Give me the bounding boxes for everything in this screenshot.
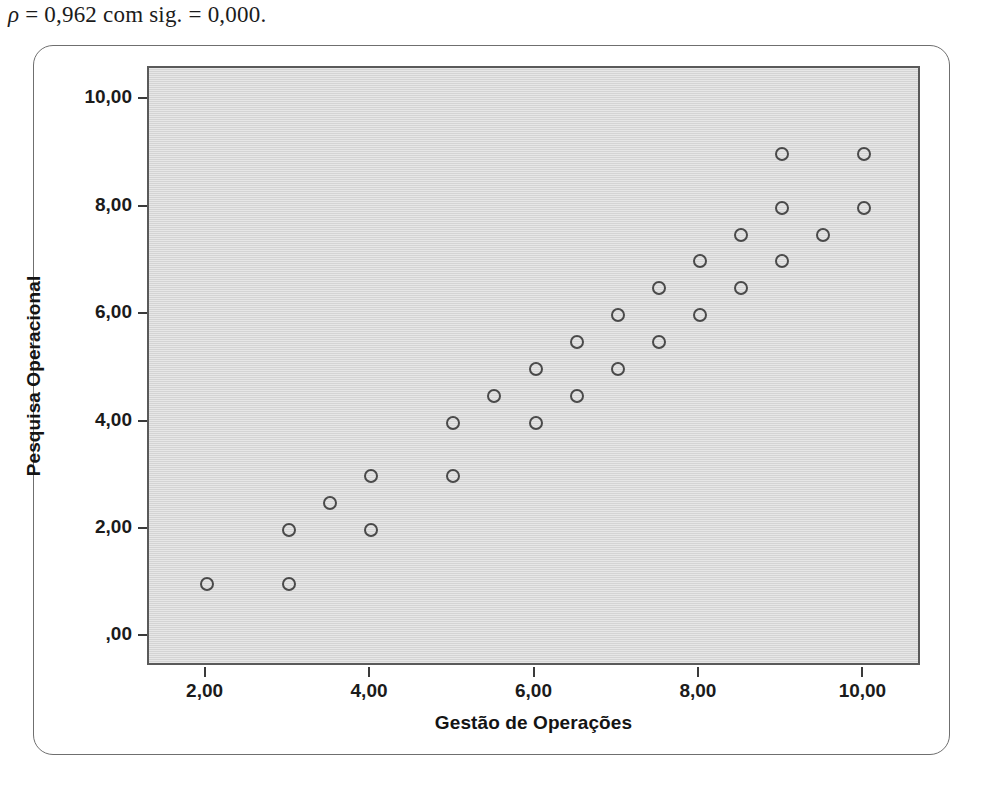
plot-panel [147,66,920,665]
y-tick-label: ,00 [48,623,132,645]
y-tick-label: 10,00 [48,86,132,108]
y-axis-title: Pesquisa Operacional [23,226,45,526]
y-tick-label-wrap: 2,00 [44,516,132,540]
data-point [529,362,543,376]
y-tick-mark [138,420,147,422]
y-tick-label-wrap: ,00 [44,623,132,647]
y-tick-label-wrap: 6,00 [44,301,132,325]
y-tick-label-wrap: 4,00 [44,409,132,433]
y-tick-label-wrap: 8,00 [44,194,132,218]
data-point [364,469,378,483]
data-point [734,228,748,242]
y-tick-mark [138,97,147,99]
x-tick-label-wrap: 4,00 [309,680,429,702]
x-tick-label-wrap: 8,00 [638,680,758,702]
data-point [446,469,460,483]
y-tick-label: 2,00 [48,516,132,538]
data-point [611,362,625,376]
data-point [693,254,707,268]
y-tick-label: 8,00 [48,194,132,216]
data-point [652,335,666,349]
data-point [282,577,296,591]
x-tick-label: 10,00 [839,680,887,701]
data-point [816,228,830,242]
data-point [323,496,337,510]
data-point [364,523,378,537]
data-point [570,389,584,403]
x-tick-label: 4,00 [351,680,388,701]
data-point [487,389,501,403]
y-tick-mark [138,205,147,207]
data-point [734,281,748,295]
y-tick-label-wrap: 10,00 [44,86,132,110]
x-tick-mark [861,667,863,677]
data-point [857,147,871,161]
data-point [446,416,460,430]
x-tick-label: 8,00 [679,680,716,701]
scatter-plot: ,002,004,006,008,0010,00 Pesquisa Operac… [0,0,983,786]
x-tick-label-wrap: 10,00 [802,680,922,702]
data-point [775,147,789,161]
data-point [693,308,707,322]
y-tick-label: 6,00 [48,301,132,323]
y-tick-mark [138,634,147,636]
data-point [857,201,871,215]
data-point [570,335,584,349]
data-point [775,254,789,268]
data-point [282,523,296,537]
data-point [775,201,789,215]
x-tick-label: 6,00 [515,680,552,701]
x-axis-title: Gestão de Operações [147,712,920,734]
y-tick-mark [138,312,147,314]
x-tick-mark [204,667,206,677]
x-tick-label-wrap: 2,00 [145,680,265,702]
data-point [611,308,625,322]
data-point [200,577,214,591]
x-tick-mark [368,667,370,677]
data-point [529,416,543,430]
y-tick-label: 4,00 [48,409,132,431]
x-tick-mark [697,667,699,677]
x-tick-mark [533,667,535,677]
x-tick-label: 2,00 [186,680,223,701]
x-tick-label-wrap: 6,00 [474,680,594,702]
y-tick-mark [138,527,147,529]
data-point [652,281,666,295]
